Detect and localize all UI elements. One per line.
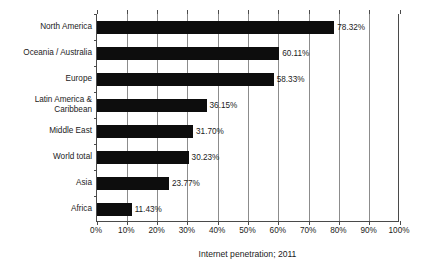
gridline [127,14,128,221]
x-axis-tick [339,221,340,225]
category-tick [94,40,97,41]
x-axis-tick [248,10,249,14]
x-axis-tick [97,221,98,225]
x-axis-tick [400,10,401,14]
x-axis-tick [218,10,219,14]
bar-value-label: 78.32% [334,21,365,34]
gridline [187,14,188,221]
x-axis-tick [309,10,310,14]
gridline [157,14,158,221]
x-axis-tick [278,221,279,225]
category-label: Europe [0,74,92,84]
x-axis-tick [157,10,158,14]
category-label: World total [0,152,92,162]
gridline [248,14,249,221]
gridline [339,14,340,221]
x-axis-tick-label: 100% [389,226,410,236]
category-label: Latin America & Caribbean [0,95,92,114]
bar [97,151,189,164]
bar-value-label: 58.33% [274,73,305,86]
category-label: Middle East [0,126,92,136]
x-axis-tick-label: 70% [300,226,316,236]
bar [97,73,274,86]
category-tick [94,14,97,15]
x-axis-tick-label: 90% [360,226,376,236]
gridline [278,14,279,221]
bar-value-label: 11.43% [132,203,162,216]
x-axis-tick-label: 60% [270,226,286,236]
gridline [218,14,219,221]
x-axis-tick-label: 30% [179,226,195,236]
x-axis-tick [309,221,310,225]
x-axis-tick-label: 20% [148,226,164,236]
category-axis: North AmericaOceania / AustraliaEuropeLa… [0,14,92,222]
x-axis-tick [400,221,401,225]
x-axis-tick [187,10,188,14]
x-axis-tick [187,221,188,225]
bar-value-label: 31.70% [193,125,224,138]
gridline [369,14,370,221]
x-axis-tick-label: 50% [239,226,255,236]
bar-value-label: 60.11% [279,47,309,60]
bar [97,47,279,60]
x-axis-tick [369,10,370,14]
x-axis-tick [339,10,340,14]
bar [97,177,169,190]
category-tick [94,66,97,67]
bar-value-label: 36.15% [207,99,238,112]
x-axis-tick-label: 80% [330,226,346,236]
gridline [309,14,310,221]
category-tick [94,170,97,171]
x-axis-title: Internet penetration; 2011 [96,249,399,259]
x-axis-tick [278,10,279,14]
x-axis-tick-label: 0% [90,226,102,236]
x-axis-tick-label: 10% [118,226,134,236]
x-axis-tick [218,221,219,225]
x-axis-tick [369,221,370,225]
category-tick [94,92,97,93]
category-label: Asia [0,178,92,188]
category-label: North America [0,22,92,32]
bar-value-label: 30.23% [189,151,220,164]
bar [97,203,132,216]
plot-area: 78.32%60.11%58.33%36.15%31.70%30.23%23.7… [96,14,399,222]
bar [97,99,207,112]
x-axis-tick [127,221,128,225]
bar [97,125,193,138]
bar-chart: North AmericaOceania / AustraliaEuropeLa… [0,0,428,271]
category-tick [94,196,97,197]
category-label: Oceania / Australia [0,48,92,58]
x-axis-tick [127,10,128,14]
x-axis-tick [157,221,158,225]
bar [97,21,334,34]
category-tick [94,144,97,145]
bar-value-label: 23.77% [169,177,200,190]
x-axis-tick-label: 40% [209,226,225,236]
category-label: Africa [0,204,92,214]
category-tick [94,118,97,119]
x-axis-tick [248,221,249,225]
